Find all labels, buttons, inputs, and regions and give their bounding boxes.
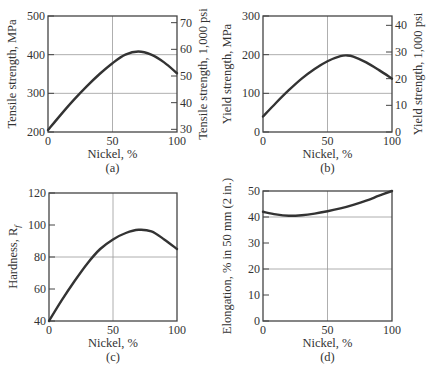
x-axis-label: Nickel, % xyxy=(88,147,138,161)
x-tick-label: 0 xyxy=(260,134,266,148)
x-tick-label: 100 xyxy=(383,323,401,337)
y-axis-label: Yield strength, MPa xyxy=(220,23,234,124)
x-tick-label: 50 xyxy=(107,134,119,148)
y-tick-label: 30 xyxy=(248,236,260,250)
x-tick-label: 0 xyxy=(260,323,266,337)
y-right-tick-label: 40 xyxy=(180,96,192,110)
y-right-tick-label: 40 xyxy=(395,18,407,32)
y-right-tick-label: 70 xyxy=(180,16,192,30)
y-tick-label: 500 xyxy=(27,9,45,23)
y-tick-label: 120 xyxy=(28,186,46,200)
y-tick-label: 100 xyxy=(242,86,260,100)
y-axis-label: Hardness, Rf xyxy=(6,224,22,289)
panel-caption: (c) xyxy=(106,350,120,364)
y-right-tick-label: 60 xyxy=(180,42,192,56)
chart-panel-c: 406080100120050100Nickel, %(c)Hardness, … xyxy=(6,186,186,364)
x-axis-label: Nickel, % xyxy=(303,336,353,350)
y-right-tick-label: 30 xyxy=(395,45,407,59)
x-axis-label: Nickel, % xyxy=(88,336,138,350)
x-tick-label: 0 xyxy=(46,323,52,337)
y-tick-label: 60 xyxy=(34,282,46,296)
y-axis-label: Elongation, % in 50 mm (2 in.) xyxy=(220,178,234,334)
y-axis-label-subscript: f xyxy=(12,224,22,228)
y-tick-label: 80 xyxy=(34,250,46,264)
panel-caption: (b) xyxy=(320,161,335,175)
y-axis-label: Tensile strength, MPa xyxy=(5,19,19,129)
x-tick-label: 50 xyxy=(322,134,334,148)
x-axis-label: Nickel, % xyxy=(303,147,353,161)
y-tick-label: 20 xyxy=(248,262,260,276)
x-tick-label: 100 xyxy=(168,323,186,337)
y-right-tick-label: 50 xyxy=(180,69,192,83)
y-tick-label: 100 xyxy=(28,218,46,232)
x-tick-label: 50 xyxy=(107,323,119,337)
y-right-axis-label: Tensile strength, 1,000 psi xyxy=(196,8,210,140)
chart-panel-d: 01020304050050100Nickel, %(d)Elongation,… xyxy=(220,178,401,364)
y-tick-label: 50 xyxy=(248,184,260,198)
chart-panel-a: 2003004005003040506070Tensile strength, … xyxy=(5,8,210,175)
y-tick-label: 40 xyxy=(34,314,46,328)
panel-caption: (d) xyxy=(320,350,335,364)
y-tick-label: 200 xyxy=(27,125,45,139)
y-tick-label: 300 xyxy=(27,86,45,100)
x-tick-label: 100 xyxy=(168,134,186,148)
chart-panel-b: 0100200300010203040Yield strength, 1,000… xyxy=(220,9,425,175)
x-tick-label: 100 xyxy=(383,134,401,148)
x-tick-label: 50 xyxy=(322,323,334,337)
panel-caption: (a) xyxy=(106,161,120,175)
y-tick-label: 200 xyxy=(242,48,260,62)
y-right-tick-label: 10 xyxy=(395,98,407,112)
x-tick-label: 0 xyxy=(45,134,51,148)
nickel-properties-figure: 2003004005003040506070Tensile strength, … xyxy=(0,0,431,370)
y-right-tick-label: 20 xyxy=(395,72,407,86)
y-tick-label: 300 xyxy=(242,9,260,23)
y-right-axis-label: Yield strength, 1,000 psi xyxy=(411,12,425,135)
y-tick-label: 40 xyxy=(248,210,260,224)
y-tick-label: 10 xyxy=(248,288,260,302)
y-tick-label: 400 xyxy=(27,48,45,62)
